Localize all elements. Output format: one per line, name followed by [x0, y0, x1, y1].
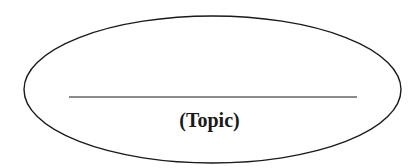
topic-diagram [0, 0, 419, 168]
topic-label: (Topic) [0, 109, 419, 132]
topic-ellipse [24, 16, 401, 163]
